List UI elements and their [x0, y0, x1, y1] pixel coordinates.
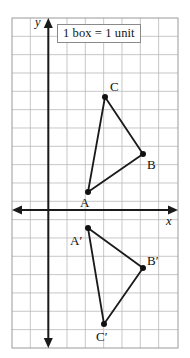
- x-axis-label: x: [166, 215, 172, 228]
- triangle-a-prime-b-prime-c-prime: [88, 228, 143, 324]
- y-axis-arrow-up: [44, 18, 53, 28]
- vertex-label: A′: [70, 234, 82, 247]
- vertex-dot: [101, 321, 107, 327]
- triangle-abc: [88, 97, 143, 192]
- vertex-label: B′: [147, 254, 159, 267]
- x-axis-arrow-left: [12, 206, 22, 215]
- y-axis-arrow-down: [44, 338, 53, 348]
- vertex-label: B: [147, 158, 156, 171]
- y-axis-label: y: [35, 16, 41, 29]
- unit-legend-box: 1 box = 1 unit: [57, 24, 141, 43]
- grid-lines: [12, 18, 178, 348]
- vertex-dot: [140, 151, 146, 157]
- coordinate-plane-figure: 1 box = 1 unit y x ABCA′B′C′: [0, 0, 190, 358]
- vertex-dot: [85, 225, 91, 231]
- vertex-dot: [102, 94, 108, 100]
- coordinate-plane-canvas: [0, 0, 190, 358]
- vertex-label: A: [80, 196, 89, 209]
- vertex-label: C: [110, 80, 119, 93]
- vertex-dot: [140, 265, 146, 271]
- vertex-label: C′: [96, 330, 108, 343]
